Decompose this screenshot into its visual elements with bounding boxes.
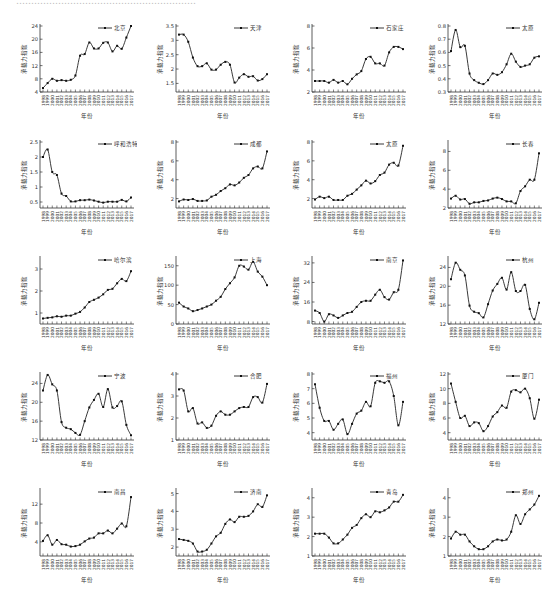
- x-tick-label: 2017: [129, 95, 134, 106]
- axes: 4567819981999200020012002200320042005200…: [307, 371, 406, 454]
- data-point-marker: [220, 410, 222, 412]
- data-point-marker: [70, 546, 72, 548]
- x-axis-label: 年份: [489, 460, 501, 468]
- data-point-marker: [351, 311, 353, 313]
- data-point-marker: [365, 58, 367, 60]
- data-point-marker: [102, 293, 104, 295]
- data-point-marker: [323, 533, 325, 535]
- y-tick-label: 2: [35, 154, 38, 160]
- data-point-marker: [328, 82, 330, 84]
- data-point-marker: [455, 401, 457, 403]
- data-point-marker: [478, 201, 480, 203]
- y-axis-label: 承载力指数: [428, 276, 436, 306]
- data-point-marker: [360, 301, 362, 303]
- data-point-marker: [319, 312, 321, 314]
- data-point-marker: [356, 306, 358, 308]
- data-point-marker: [238, 407, 240, 409]
- data-point-marker: [314, 533, 316, 535]
- data-point-marker: [192, 198, 194, 200]
- data-point-marker: [478, 548, 480, 550]
- y-tick-label: 8: [307, 23, 310, 29]
- y-tick-label: 16: [31, 418, 38, 424]
- y-tick-label: 8: [171, 139, 174, 145]
- data-point-marker: [79, 544, 81, 546]
- legend: 福州: [370, 372, 398, 380]
- data-point-marker: [88, 301, 90, 303]
- chart-panel-7: 2468199819992000200120022003200420052006…: [272, 134, 409, 250]
- data-point-marker: [197, 65, 199, 67]
- data-point-marker: [42, 540, 44, 542]
- data-point-marker: [74, 432, 76, 434]
- data-point-marker: [487, 425, 489, 427]
- data-point-marker: [229, 518, 231, 520]
- x-tick-label: 2017: [401, 95, 406, 106]
- data-point-marker: [374, 382, 376, 384]
- data-point-marker: [125, 525, 127, 527]
- data-point-marker: [243, 73, 245, 75]
- axes: 1.522.533.519981999200020012002200320042…: [166, 23, 270, 106]
- data-point-marker: [501, 405, 503, 407]
- legend: 杭州: [506, 256, 534, 264]
- data-point-marker: [266, 383, 268, 385]
- y-tick-label: 2: [443, 534, 446, 540]
- data-point-marker: [210, 69, 212, 71]
- x-axis-label: 年份: [353, 576, 365, 584]
- x-tick-label: 2017: [401, 327, 406, 338]
- data-point-marker: [61, 543, 63, 545]
- data-point-marker: [506, 289, 508, 291]
- y-axis-label: 承载力指数: [428, 44, 436, 74]
- legend: 太原: [506, 24, 534, 32]
- data-point-marker: [365, 401, 367, 403]
- data-point-marker: [84, 53, 86, 55]
- data-point-marker: [206, 549, 208, 551]
- data-point-marker: [187, 540, 189, 542]
- data-point-marker: [346, 433, 348, 435]
- y-tick-label: 24: [31, 23, 38, 29]
- y-tick-label: 8: [443, 148, 446, 154]
- data-point-marker: [533, 318, 535, 320]
- data-point-marker: [393, 291, 395, 293]
- data-point-marker: [111, 406, 113, 408]
- data-point-marker: [529, 397, 531, 399]
- axes: 0501001501998199920002001200220032004200…: [164, 256, 270, 338]
- data-point-marker: [192, 407, 194, 409]
- data-point-marker: [314, 310, 316, 312]
- chart-panel-16: 4681012199819992000200120022003200420052…: [408, 366, 545, 482]
- data-point-marker: [266, 150, 268, 152]
- data-point-marker: [337, 542, 339, 544]
- data-point-marker: [388, 51, 390, 53]
- data-point-marker: [210, 196, 212, 198]
- data-series-line: [451, 496, 539, 550]
- legend-label: 南昌: [114, 488, 126, 496]
- data-point-marker: [206, 306, 208, 308]
- data-point-marker: [459, 46, 461, 48]
- y-tick-label: 3: [171, 37, 174, 43]
- data-point-marker: [402, 401, 404, 403]
- data-point-marker: [510, 391, 512, 393]
- x-axis-label: 年份: [217, 576, 229, 584]
- data-point-marker: [314, 383, 316, 385]
- data-point-marker: [473, 201, 475, 203]
- data-point-marker: [346, 195, 348, 197]
- y-tick-label: 150: [164, 263, 174, 269]
- data-series-line: [179, 151, 267, 201]
- data-point-marker: [515, 514, 517, 516]
- y-tick-label: 1: [35, 184, 38, 190]
- data-point-marker: [243, 406, 245, 408]
- y-tick-label: 10: [439, 386, 446, 392]
- y-tick-label: 0.4: [438, 76, 447, 82]
- data-point-marker: [397, 165, 399, 167]
- data-point-marker: [356, 189, 358, 191]
- data-point-marker: [323, 197, 325, 199]
- data-point-marker: [130, 25, 132, 27]
- data-point-marker: [455, 195, 457, 197]
- data-point-marker: [107, 289, 109, 291]
- data-point-marker: [130, 197, 132, 199]
- data-point-marker: [379, 174, 381, 176]
- data-point-marker: [243, 266, 245, 268]
- data-point-marker: [93, 537, 95, 539]
- y-axis-label: 承载力指数: [20, 160, 28, 190]
- data-point-marker: [496, 539, 498, 541]
- data-point-marker: [88, 199, 90, 201]
- x-axis-label: 年份: [217, 228, 229, 236]
